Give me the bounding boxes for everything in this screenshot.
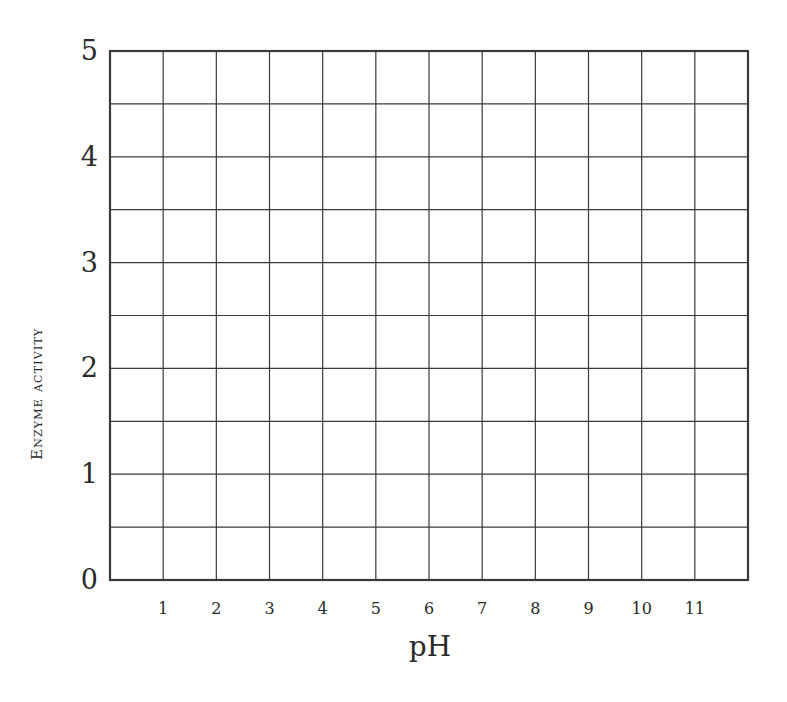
x-tick-label: 9 — [569, 601, 609, 617]
x-axis-label: pH — [390, 633, 470, 661]
y-tick-label: 3 — [58, 249, 98, 276]
chart-area: 012345 1234567891011 pH Enzyme activity — [0, 0, 787, 702]
x-tick-label: 4 — [303, 601, 343, 617]
x-tick-label: 2 — [196, 601, 236, 617]
y-axis-label-wrap: Enzyme activity — [28, 460, 228, 478]
x-tick-label: 7 — [462, 601, 502, 617]
plot-grid — [0, 0, 787, 702]
y-tick-label: 4 — [58, 143, 98, 170]
x-tick-label: 1 — [143, 601, 183, 617]
x-tick-label: 10 — [622, 601, 662, 617]
y-axis-label: Enzyme activity — [28, 260, 46, 460]
y-tick-label: 5 — [58, 37, 98, 64]
x-tick-label: 5 — [356, 601, 396, 617]
x-tick-label: 8 — [515, 601, 555, 617]
x-tick-label: 6 — [409, 601, 449, 617]
y-tick-label: 0 — [58, 566, 98, 593]
y-tick-label: 2 — [58, 354, 98, 381]
x-tick-label: 3 — [250, 601, 290, 617]
x-tick-label: 11 — [675, 601, 715, 617]
